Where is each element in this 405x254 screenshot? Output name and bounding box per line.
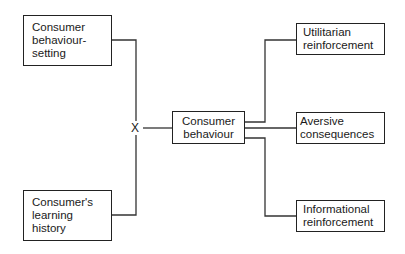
consumer-behaviour-box: Consumer behaviour xyxy=(172,111,245,144)
learning-history-line-1: Consumer's xyxy=(32,196,107,209)
behaviour-setting-box: Consumer behaviour- setting xyxy=(23,15,112,66)
utilitarian-line-1: Utilitarian xyxy=(303,26,380,39)
consumer-behaviour-line-2: behaviour xyxy=(183,128,234,141)
informational-line-1: Informational xyxy=(303,203,380,216)
learning-history-box: Consumer's learning history xyxy=(23,190,112,241)
informational-reinforcement-box: Informational reinforcement xyxy=(296,200,385,232)
interaction-symbol: X xyxy=(130,122,140,134)
learning-history-line-2: learning xyxy=(32,209,107,222)
utilitarian-reinforcement-box: Utilitarian reinforcement xyxy=(296,23,385,55)
consumer-behaviour-line-1: Consumer xyxy=(182,115,235,128)
aversive-line-1: Aversive xyxy=(300,115,380,128)
aversive-line-2: consequences xyxy=(300,128,380,141)
aversive-consequences-box: Aversive consequences xyxy=(296,112,385,144)
utilitarian-line-2: reinforcement xyxy=(303,39,380,52)
behaviour-setting-line-3: setting xyxy=(32,47,107,60)
learning-history-line-3: history xyxy=(32,222,107,235)
behaviour-setting-line-2: behaviour- xyxy=(32,34,107,47)
diagram-canvas: Consumer behaviour- setting Consumer's l… xyxy=(0,0,405,254)
informational-line-2: reinforcement xyxy=(303,216,380,229)
behaviour-setting-line-1: Consumer xyxy=(32,21,107,34)
